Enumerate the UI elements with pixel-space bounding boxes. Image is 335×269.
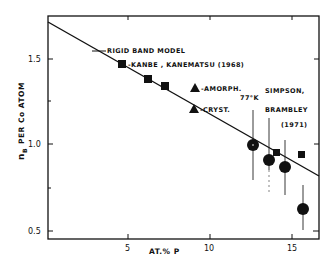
year-1971-label: (1971): [281, 121, 307, 129]
square-marker: [298, 151, 305, 158]
circle-highlight: [252, 144, 254, 146]
amorph-triangle-marker: [190, 83, 200, 92]
rigid-band-model-label: RIGID BAND MODEL: [107, 47, 185, 55]
circle-marker: [279, 161, 291, 173]
svg-text:nBPER Co ATOM: nBPER Co ATOM: [16, 82, 28, 160]
cryst-triangle-marker: [189, 104, 199, 113]
square-marker: [273, 149, 280, 156]
square-marker: [118, 60, 126, 68]
circle-marker: [297, 203, 309, 215]
x-tick-label-10: 10: [204, 244, 214, 253]
square-marker: [144, 75, 152, 83]
y-tick-label-0.5: 0.5: [28, 227, 41, 236]
x-tick-label-15: 15: [287, 244, 297, 253]
cryst-label: -CRYST.: [200, 106, 230, 114]
brambley-label: BRAMBLEY: [265, 106, 308, 114]
simpson-label: SIMPSON,: [265, 87, 305, 95]
x-axis-label: AT.% P: [149, 247, 180, 256]
y-axis-label: nBPER Co ATOM: [16, 82, 28, 160]
y-tick-label-1.5: 1.5: [28, 55, 41, 64]
high-p-squares: [273, 149, 305, 158]
amorph-label: -AMORPH.: [201, 85, 242, 93]
temperature-label: 77°K: [240, 94, 259, 102]
x-tick-label-5: 5: [125, 244, 130, 253]
chart: 1.5 1.0 0.5 5 10 15 AT.% P nBPER Co ATOM…: [0, 0, 335, 269]
square-marker: [161, 82, 169, 90]
kanbe-kanematsu-label: -KANBE , KANEMATSU (1968): [128, 61, 244, 69]
y-axis-ticks: [48, 59, 319, 231]
y-tick-label-1.0: 1.0: [28, 140, 41, 149]
